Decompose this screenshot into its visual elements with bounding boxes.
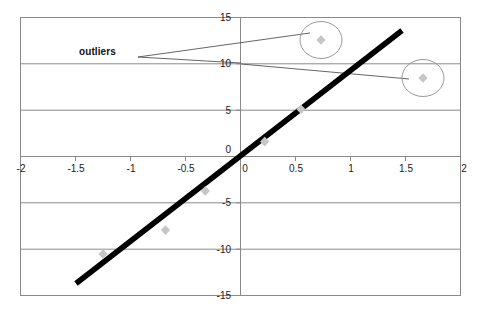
- x-axis-tick-label-minus2: -2: [4, 163, 38, 174]
- y-axis-tick-label-5: 5: [203, 105, 231, 116]
- x-axis-tick-label-minus1: -1: [114, 163, 148, 174]
- outlier-marker-1: [316, 35, 325, 45]
- x-axis-tick-label-minus0p5: -0.5: [169, 163, 203, 174]
- x-axis-tick-label-0p5: 0.5: [279, 163, 313, 174]
- chart-figure: 15 10 5 0 -5 -10 -15 -2 -1.5 -1 -0.5 0 0…: [0, 0, 481, 316]
- y-axis-tick-label-minus10: -10: [203, 244, 231, 255]
- outlier-highlight-circles: [300, 22, 444, 97]
- y-axis-tick-label-minus5: -5: [203, 197, 231, 208]
- scatter-plot-canvas: [0, 0, 481, 316]
- x-axis-tick-label-minus1p5: -1.5: [59, 163, 93, 174]
- leader-line-outlier-2-b: [241, 64, 409, 79]
- x-axis-tick-label-1: 1: [334, 163, 368, 174]
- leader-line-outlier-1: [138, 33, 310, 57]
- y-axis-tick-label-10: 10: [203, 58, 231, 69]
- outlier-marker-2: [418, 73, 427, 83]
- x-axis-tick-label-0: 0: [228, 163, 262, 174]
- y-axis-tick-label-0: 0: [203, 144, 231, 155]
- x-axis-tick-label-2: 2: [447, 163, 481, 174]
- y-axis-tick-label-15: 15: [203, 12, 231, 23]
- y-axis-tick-label-minus15: -15: [203, 290, 231, 301]
- x-axis-tick-label-1p5: 1.5: [389, 163, 423, 174]
- outliers-annotation-label: outliers: [79, 46, 116, 57]
- data-point-marker: [161, 225, 170, 235]
